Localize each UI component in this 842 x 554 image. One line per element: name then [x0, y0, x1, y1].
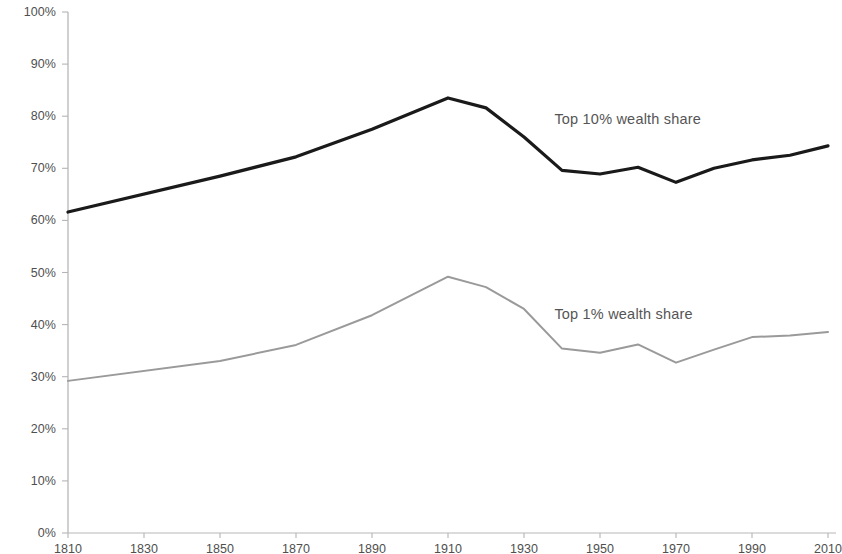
data-series-group	[68, 98, 828, 381]
x-axis-tick-label: 1890	[358, 542, 386, 554]
x-axis-tick-label: 1810	[54, 542, 82, 554]
y-axis-tick-label: 50%	[0, 266, 56, 280]
x-axis-tick-label: 2010	[814, 542, 842, 554]
x-axis-tick-label: 1830	[130, 542, 158, 554]
y-axis-tick-label: 20%	[0, 422, 56, 436]
y-axis-tick-label: 80%	[0, 109, 56, 123]
y-axis-tick-label: 60%	[0, 213, 56, 227]
x-axis-tick-label: 1870	[282, 542, 310, 554]
axis-lines	[68, 12, 836, 533]
wealth-share-line-chart: 0%10%20%30%40%50%60%70%80%90%100% 181018…	[0, 0, 842, 554]
series-label-top-10-percent: Top 10% wealth share	[554, 111, 701, 127]
x-axis-tick-label: 1910	[434, 542, 462, 554]
series-label-top-1-percent: Top 1% wealth share	[554, 306, 692, 322]
y-axis-tick-label: 10%	[0, 474, 56, 488]
x-axis-tick-label: 1970	[662, 542, 690, 554]
y-axis-tick-label: 100%	[0, 5, 56, 19]
series-line-top-1-percent	[68, 277, 828, 381]
chart-plot-area	[0, 0, 842, 554]
x-axis-tick-label: 1930	[510, 542, 538, 554]
x-axis-ticks	[68, 533, 828, 538]
y-axis-ticks	[62, 12, 68, 533]
series-line-top-10-percent	[68, 98, 828, 212]
y-axis-tick-label: 40%	[0, 318, 56, 332]
y-axis-tick-label: 30%	[0, 370, 56, 384]
y-axis-tick-label: 90%	[0, 57, 56, 71]
y-axis-tick-label: 0%	[0, 526, 56, 540]
x-axis-tick-label: 1990	[738, 542, 766, 554]
y-axis-tick-label: 70%	[0, 161, 56, 175]
x-axis-tick-label: 1950	[586, 542, 614, 554]
x-axis-tick-label: 1850	[206, 542, 234, 554]
